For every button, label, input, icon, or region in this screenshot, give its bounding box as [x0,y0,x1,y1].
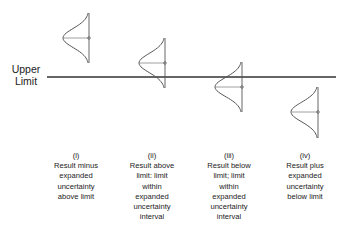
caption-numeral: (i) [40,151,112,161]
caption-line: within [193,182,265,192]
caption-line: limit: limit [116,171,188,181]
distribution-curve-ii [139,38,166,88]
caption-numeral: (ii) [116,151,188,161]
caption-line: below limit [269,192,341,202]
caption-line: expanded [40,171,112,181]
caption-line: Result above [116,161,188,171]
caption-line: Result plus [269,161,341,171]
caption-case-ii: (ii)Result abovelimit: limitwithinexpand… [116,151,188,222]
caption-line: interval [116,212,188,222]
caption-numeral: (iii) [193,151,265,161]
caption-line: within [116,182,188,192]
distribution-curve-i [63,13,90,63]
caption-case-iv: (iv)Result plusexpandeduncertaintybelow … [269,151,341,202]
bell-curve [291,87,317,138]
caption-line: uncertainty [193,202,265,212]
upper-limit-label: Upper Limit [6,63,46,87]
distribution-curve-iii [215,62,243,112]
caption-case-iii: (iii)Result belowlimit; limitwithinexpan… [193,151,265,222]
caption-line: uncertainty [40,182,112,192]
caption-case-i: (i)Result minusexpandeduncertaintyabove … [40,151,112,202]
caption-line: above limit [40,192,112,202]
caption-line: uncertainty [116,202,188,212]
distribution-curve-iv [291,87,319,138]
upper-limit-label-line2: Limit [6,75,46,87]
caption-line: Result minus [40,161,112,171]
caption-line: expanded [193,192,265,202]
caption-line: uncertainty [269,182,341,192]
distribution-curves [63,13,319,138]
caption-line: limit; limit [193,171,265,181]
caption-numeral: (iv) [269,151,341,161]
caption-line: interval [193,212,265,222]
caption-line: Result below [193,161,265,171]
caption-line: expanded [269,171,341,181]
caption-line: expanded [116,192,188,202]
upper-limit-label-line1: Upper [6,63,46,75]
